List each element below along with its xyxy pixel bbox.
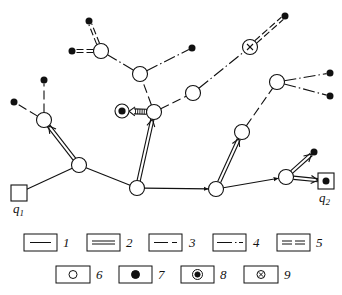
edge-n1-n3 <box>86 168 130 185</box>
legend-num-5: 5 <box>316 235 323 250</box>
edge-n9-n12 <box>223 178 278 187</box>
node-crossed-circle-n8 <box>243 40 258 55</box>
terminal-dot-icon <box>323 178 330 185</box>
network-diagram: q1 q2 1 2 3 4 <box>0 0 342 295</box>
edge-n10-n11 <box>246 88 272 126</box>
edge-n11-d8 <box>284 84 326 95</box>
legend-row-2: 6 7 8 9 <box>56 266 291 283</box>
edge-n5-n6 <box>107 55 133 70</box>
node-open-circle-n6 <box>94 44 109 59</box>
edge-n1-n2 <box>47 125 75 160</box>
node-open-circle-n1 <box>72 158 87 173</box>
node-filled-dot-d5 <box>189 45 196 52</box>
legend-num-8: 8 <box>220 267 227 282</box>
legend-row-1: 1 2 3 4 5 <box>24 234 323 251</box>
legend-num-1: 1 <box>63 235 70 250</box>
nodes-layer <box>11 13 335 202</box>
edge-n12-d9 <box>291 153 313 173</box>
edge-n6-d3 <box>89 24 100 45</box>
edge-n8-d6 <box>255 17 284 43</box>
legend-item-7: 7 <box>119 266 165 283</box>
legend-num-4: 4 <box>253 235 260 250</box>
legend-item-6: 6 <box>56 266 103 283</box>
edge-n4-n5 <box>143 81 152 105</box>
legend-item-9: 9 <box>244 266 291 283</box>
node-open-circle-n9 <box>209 182 224 197</box>
q2-label: q2 <box>319 190 331 207</box>
legend-item-8: 8 <box>181 266 227 283</box>
edge-n5-d5 <box>147 50 189 71</box>
edge-n2-d2 <box>17 104 38 116</box>
edge-n3-n4 <box>137 119 155 181</box>
legend-num-2: 2 <box>126 235 133 250</box>
node-filled-dot-d7 <box>327 70 334 77</box>
edge-n3-n9 <box>144 188 208 189</box>
legend-item-5: 5 <box>277 234 323 251</box>
node-open-circle-n7 <box>186 86 201 101</box>
node-open-circle-n11 <box>270 75 285 90</box>
edge-q1-n1 <box>26 168 72 189</box>
node-open-circle-n2 <box>37 113 52 128</box>
legend-item-1: 1 <box>24 234 70 251</box>
legend-num-6: 6 <box>96 267 103 282</box>
node-filled-dot-d1 <box>41 77 48 84</box>
legend-num-7: 7 <box>158 267 165 282</box>
edge-n4-n13 <box>129 107 147 116</box>
edge-n7-n8 <box>199 52 244 89</box>
node-open-circle-n12 <box>279 170 294 185</box>
node-double-circle-n13 <box>115 104 129 118</box>
node-open-circle-n3 <box>130 181 145 196</box>
node-filled-dot-d4 <box>69 48 76 55</box>
node-open-circle-n4 <box>147 105 162 120</box>
q1-label: q1 <box>13 201 24 218</box>
legend-num-9: 9 <box>284 267 291 282</box>
terminal-q1 <box>11 185 27 201</box>
edge-n9-n10 <box>218 138 241 183</box>
edge-n12-q2 <box>293 176 318 184</box>
edge-n4-n7 <box>161 96 187 108</box>
edge-n6-d4 <box>76 50 94 53</box>
legend-item-4: 4 <box>213 234 260 251</box>
node-open-circle-n10 <box>235 125 250 140</box>
node-filled-dot-d3 <box>86 18 93 25</box>
legend-item-3: 3 <box>149 234 196 251</box>
node-filled-dot-d8 <box>327 93 334 100</box>
legend-num-3: 3 <box>188 235 196 250</box>
node-open-circle-n5 <box>133 67 148 82</box>
node-filled-dot-d2 <box>11 99 18 106</box>
node-filled-dot-d9 <box>311 149 318 156</box>
node-filled-dot-d6 <box>282 13 289 20</box>
legend-item-2: 2 <box>87 234 133 251</box>
edge-n11-d7 <box>284 74 326 81</box>
edges-layer <box>17 17 327 189</box>
